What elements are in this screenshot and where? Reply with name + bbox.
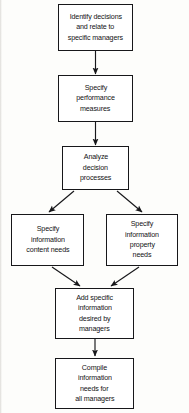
node-compile-information-needs[interactable]: Compile information needs for all manage… — [55, 358, 134, 409]
node-text-line: Add specific — [76, 293, 113, 303]
node-text-line: Specify — [84, 83, 106, 93]
node-text-line: processes — [80, 173, 111, 183]
node-analyze-decision-processes[interactable]: Analyze decision processes — [62, 146, 129, 190]
node-text-line: information — [125, 230, 159, 240]
node-text-line: performance — [76, 93, 115, 103]
connector-property-needs-to-add-specific — [111, 267, 139, 286]
flowchart-connectors — [0, 0, 189, 413]
node-text-line: all managers — [75, 394, 114, 404]
node-text-line: needs for — [80, 384, 108, 394]
node-text-line: Specify — [131, 219, 153, 229]
node-text-line: Analyze — [83, 152, 107, 162]
node-text-line: and relate to — [77, 22, 115, 32]
node-text-line: Specify — [36, 224, 58, 234]
node-text-line: measures — [80, 104, 110, 114]
node-text-line: content needs — [26, 245, 69, 255]
node-text-line: information — [31, 235, 65, 245]
node-text-line: Compile — [82, 363, 107, 373]
node-text-line: needs — [133, 250, 152, 260]
node-identify-decisions[interactable]: Identify decisions and relate to specifi… — [58, 4, 133, 51]
node-add-specific-information[interactable]: Add specific information desired by mana… — [55, 288, 134, 339]
node-text-line: information — [78, 303, 112, 313]
node-specify-information-content-needs[interactable]: Specify information content needs — [11, 214, 84, 266]
node-text-line: property — [129, 240, 154, 250]
node-specify-performance-measures[interactable]: Specify performance measures — [58, 75, 133, 122]
node-text-line: managers — [79, 324, 110, 334]
node-text-line: Identify decisions — [69, 12, 121, 22]
connector-analyze-to-content-needs — [49, 191, 74, 212]
node-text-line: decision — [83, 163, 108, 173]
node-text-line: desired by — [79, 314, 111, 324]
node-text-line: information — [78, 373, 112, 383]
node-specify-information-property-needs[interactable]: Specify information property needs — [106, 214, 178, 266]
connector-content-needs-to-add-specific — [52, 267, 80, 286]
node-text-line: specific managers — [68, 33, 123, 43]
flowchart-canvas: Identify decisions and relate to specifi… — [0, 0, 189, 413]
connector-analyze-to-property-needs — [117, 191, 142, 212]
page-scan-edge — [0, 0, 2, 413]
